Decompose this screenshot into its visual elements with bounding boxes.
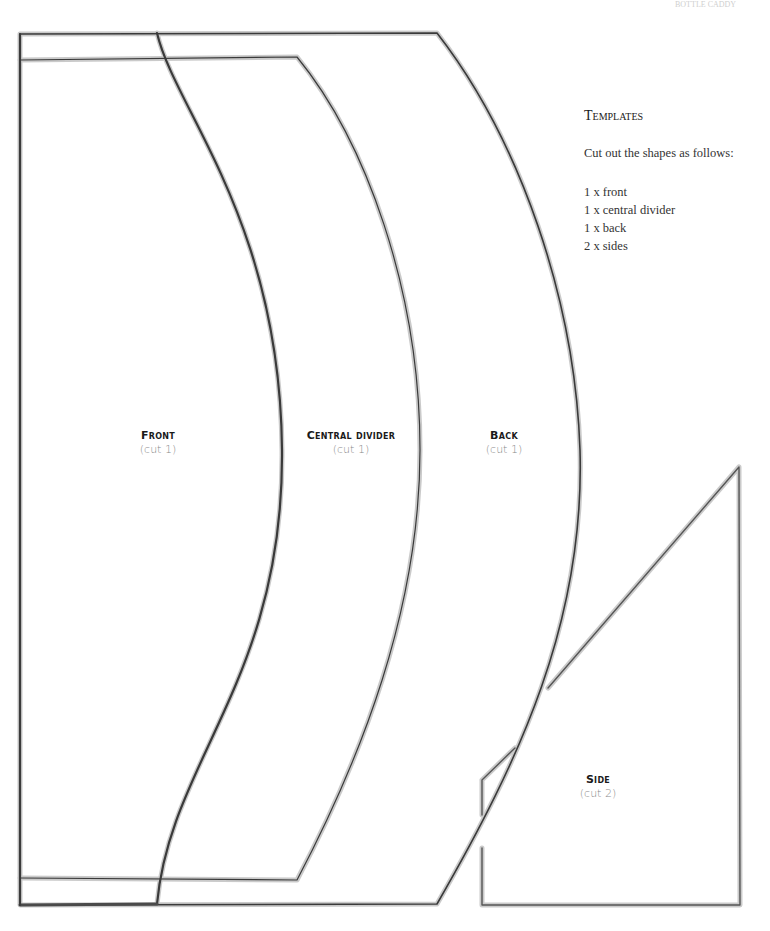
back-label: Back (cut 1) [486,429,522,456]
piece-cut-count: (cut 2) [580,787,616,800]
instructions-intro: Cut out the shapes as follows: [584,146,770,161]
front-piece-outline [157,33,282,904]
template-page: BOTTLE CADDY [0,0,770,931]
piece-cut-count: (cut 1) [486,443,522,456]
front-label: Front (cut 1) [140,429,176,456]
cut-list-item: 2 x sides [584,237,770,255]
back-piece-outline [20,33,580,905]
piece-name: Central divider [307,429,396,442]
side-label: Side (cut 2) [580,773,616,800]
piece-name: Back [486,429,522,442]
cut-list-item: 1 x back [584,219,770,237]
central-divider-label: Central divider (cut 1) [307,429,396,456]
instructions-panel: Templates Cut out the shapes as follows:… [584,108,770,255]
piece-name: Side [580,773,616,786]
instructions-title: Templates [584,108,770,124]
piece-cut-count: (cut 1) [140,443,176,456]
piece-cut-count: (cut 1) [307,443,396,456]
cut-list-item: 1 x central divider [584,201,770,219]
cut-list: 1 x front 1 x central divider 1 x back 2… [584,183,770,255]
piece-name: Front [140,429,176,442]
side-piece-outline [482,467,740,905]
cut-list-item: 1 x front [584,183,770,201]
central-divider-outline [20,57,420,880]
